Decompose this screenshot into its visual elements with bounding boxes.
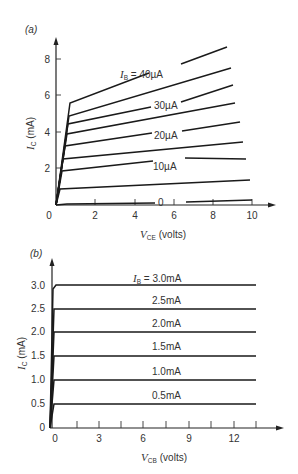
curve-label-0: 0 [158,197,164,208]
curve-ib-10 [56,161,153,205]
svg-text:0: 0 [39,422,45,433]
y-axis-arrow-icon [50,258,55,266]
y-tick-label: 4 [44,127,50,138]
chart-a: (a) 2 4 6 8 0 2 4 6 8 10 [24,24,276,241]
curve-ib-15 [56,142,243,205]
x-tick-label: 6 [171,210,177,221]
svg-text:1.5: 1.5 [31,350,45,361]
x-tick-label: 8 [210,210,216,221]
y-axis-title-b: IC(mA) [15,337,28,371]
curves-b [50,285,256,428]
x-tick-label: 10 [246,210,258,221]
curve-label-30: 30µA [154,100,178,111]
curve-ib-10-right [185,158,246,159]
curve-ib-40-right [181,47,227,64]
svg-text:1.0: 1.0 [31,374,45,385]
y-axis-arrow-icon [54,37,59,45]
svg-text:0.5: 0.5 [31,398,45,409]
x-axis-title-a: VCE(volts) [140,228,186,241]
x-ticks-b: 0 3 6 9 12 [52,421,256,444]
svg-text:12: 12 [228,433,240,444]
curve-label-2.0: 2.0mA [152,318,181,329]
curve-ib-0.5 [50,404,256,428]
y-tick-label: 8 [44,54,50,65]
curve-label-1.5: 1.5mA [152,341,181,352]
x-axis-arrow-icon [268,203,276,208]
svg-text:6: 6 [140,433,146,444]
curve-ib-25 [56,103,235,205]
curve-label-40: IB = 40µA [119,68,163,81]
panel-label-b: (b) [30,248,42,259]
curve-ib-30-right [181,85,233,102]
x-axis-title-b: VCB(volts) [141,451,187,464]
svg-text:3: 3 [96,433,102,444]
curve-label-3.0: IB = 3.0mA [132,272,182,285]
y-axis-title-a: IC(mA) [24,117,37,151]
y-tick-label: 6 [44,90,50,101]
curve-label-1.0: 1.0mA [152,366,181,377]
x-axis-arrow-icon [276,426,284,431]
svg-text:3.0: 3.0 [31,280,45,291]
y-ticks-a: 2 4 6 8 [44,54,61,174]
panel-label-a: (a) [25,24,37,35]
x-tick-label: 4 [132,210,138,221]
svg-text:2.5: 2.5 [31,303,45,314]
y-ticks-b: 0 0.5 1.0 1.5 2.0 2.5 3.0 [31,280,45,433]
chart-b: (b) 0 0.5 1.0 1.5 2.0 2.5 3.0 0 [15,248,284,464]
svg-text:9: 9 [186,433,192,444]
curve-label-20: 20µA [154,130,178,141]
curve-ib-20-right [182,122,240,131]
svg-text:0: 0 [52,433,58,444]
curve-ib-0-right [186,200,252,202]
x-tick-label: 2 [92,210,98,221]
svg-text:2.0: 2.0 [31,326,45,337]
curve-ib-20 [56,133,152,205]
curve-label-10: 10µA [153,161,177,172]
transistor-characteristics-figure: (a) 2 4 6 8 0 2 4 6 8 10 [0,0,298,474]
x-tick-label: 0 [46,210,52,221]
curve-label-0.5: 0.5mA [152,390,181,401]
y-tick-label: 2 [44,163,50,174]
curve-label-2.5: 2.5mA [152,295,181,306]
